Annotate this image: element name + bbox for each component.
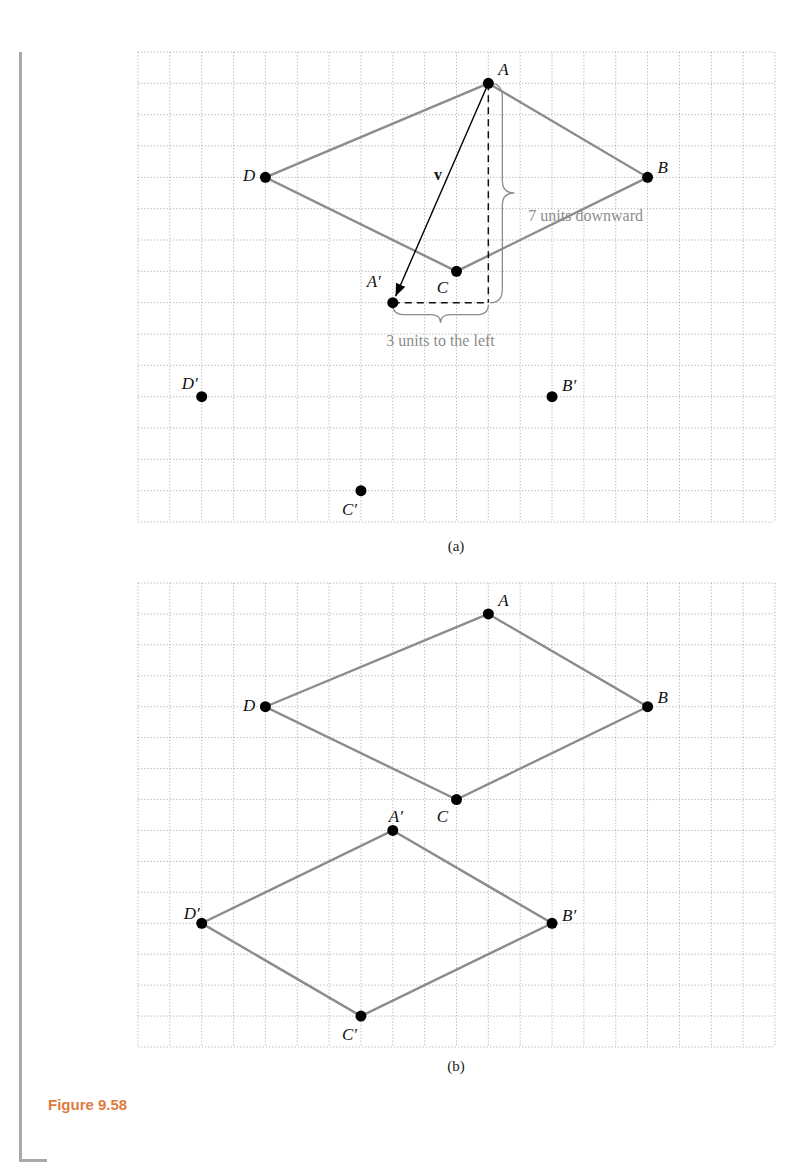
point-B: [642, 701, 653, 712]
grid-b: [138, 583, 775, 1047]
point-D: [260, 172, 271, 183]
margin-rule-foot: [19, 1159, 47, 1162]
label-A-prime: A′: [366, 272, 381, 291]
label-C: C: [437, 807, 449, 826]
label-A: A: [497, 591, 509, 610]
label-A: A: [497, 60, 509, 79]
panel-label-a: (a): [448, 538, 465, 555]
point-B-prime: [547, 918, 558, 929]
vector-label-v: v: [434, 166, 442, 183]
label-B-prime: B′: [562, 906, 576, 925]
label-A-prime: A′: [388, 807, 403, 826]
label-C-prime: C′: [342, 1025, 357, 1044]
vertical-brace: [490, 83, 514, 302]
panel-b-translated-quadrilateral: ABCDA′B′C′D′ (b): [0, 560, 797, 1080]
label-D: D: [242, 166, 256, 185]
point-B-prime: [547, 391, 558, 402]
points-b: ABCDA′B′C′D′: [183, 591, 669, 1044]
point-A: [483, 608, 494, 619]
point-B: [642, 172, 653, 183]
point-A-prime: [387, 297, 398, 308]
point-A-prime: [387, 825, 398, 836]
point-A: [483, 78, 494, 89]
label-D: D: [242, 696, 256, 715]
horizontal-brace: [393, 305, 489, 323]
point-D-prime: [196, 391, 207, 402]
point-C-prime: [355, 1011, 366, 1022]
label-C: C: [437, 278, 449, 297]
grid-a: [138, 52, 775, 522]
point-C-prime: [355, 485, 366, 496]
vertical-distance-label: 7 units downward: [528, 207, 643, 224]
point-C: [451, 794, 462, 805]
panel-label-b: (b): [447, 1058, 465, 1075]
point-C: [451, 266, 462, 277]
label-D-prime: D′: [181, 374, 198, 393]
figure-caption: Figure 9.58: [48, 1096, 127, 1113]
label-B: B: [658, 688, 669, 707]
label-B: B: [658, 158, 669, 177]
label-D-prime: D′: [183, 904, 200, 923]
label-B-prime: B′: [562, 376, 576, 395]
label-C-prime: C′: [342, 500, 357, 519]
horizontal-distance-label: 3 units to the left: [386, 332, 495, 349]
point-D: [260, 701, 271, 712]
panel-a-translation-with-vector: 7 units downward3 units to the left v AB…: [0, 0, 797, 560]
